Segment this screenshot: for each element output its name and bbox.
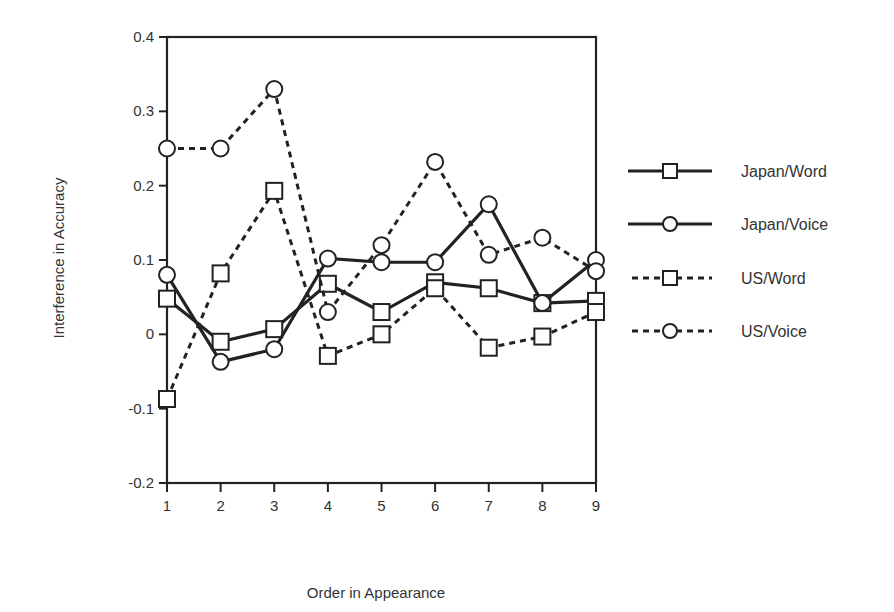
y-tick-label: 0.4 bbox=[133, 28, 154, 45]
x-tick-label: 2 bbox=[216, 497, 224, 514]
x-axis-title: Order in Appearance bbox=[307, 584, 445, 601]
series-us-voice bbox=[159, 81, 604, 320]
legend-item-japan-word: Japan/Word bbox=[628, 163, 827, 180]
y-tick-label: -0.1 bbox=[128, 400, 154, 417]
legend-item-japan-voice: Japan/Voice bbox=[628, 216, 828, 233]
legend-item-us-word: US/Word bbox=[632, 270, 806, 287]
x-axis: 123456789 bbox=[163, 483, 600, 514]
line-chart: 0.40.30.20.10-0.1-0.2123456789Order in A… bbox=[0, 0, 894, 612]
x-tick-label: 6 bbox=[431, 497, 439, 514]
x-tick-label: 5 bbox=[377, 497, 385, 514]
x-tick-label: 3 bbox=[270, 497, 278, 514]
legend-label: US/Word bbox=[741, 270, 806, 287]
y-tick-label: 0.3 bbox=[133, 102, 154, 119]
y-tick-label: -0.2 bbox=[128, 474, 154, 491]
x-tick-label: 7 bbox=[485, 497, 493, 514]
y-tick-label: 0.1 bbox=[133, 251, 154, 268]
x-tick-label: 9 bbox=[592, 497, 600, 514]
y-axis-title: Interference in Accuracy bbox=[50, 177, 67, 338]
x-tick-label: 4 bbox=[324, 497, 332, 514]
legend-label: Japan/Voice bbox=[741, 216, 828, 233]
legend: Japan/WordJapan/VoiceUS/WordUS/Voice bbox=[628, 163, 828, 340]
legend-label: Japan/Word bbox=[741, 163, 827, 180]
x-tick-label: 1 bbox=[163, 497, 171, 514]
legend-item-us-voice: US/Voice bbox=[632, 323, 807, 340]
legend-label: US/Voice bbox=[741, 323, 807, 340]
y-axis: 0.40.30.20.10-0.1-0.2 bbox=[128, 28, 167, 491]
x-tick-label: 8 bbox=[538, 497, 546, 514]
y-tick-label: 0 bbox=[146, 325, 154, 342]
y-tick-label: 0.2 bbox=[133, 177, 154, 194]
